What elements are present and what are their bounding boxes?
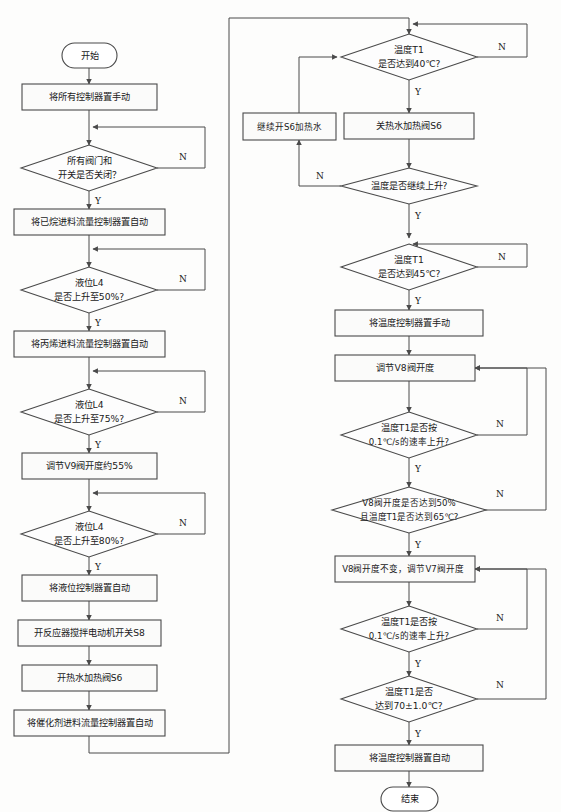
keep-v8-adjust-v7-valve-opening[interactable]: V8阀开度不变，调节V7阀开度	[335, 556, 475, 582]
node-p3-label: 将丙烯进料流量控制器置自动	[31, 338, 148, 349]
branch-label-d2-no: N	[179, 274, 187, 284]
decision-temp-rate-01-v8[interactable]: 温度T1是否按 0.1℃/s的速率上升?	[341, 412, 477, 458]
node-d3-label-line2: 是否上升至75%?	[54, 413, 124, 424]
branch-label-d10-no: N	[496, 613, 504, 623]
node-p11-label: 将温度控制器置手动	[369, 317, 450, 328]
branch-label-d4-no: N	[179, 518, 187, 528]
node-d7-label-line2: 是否达到45℃?	[378, 268, 441, 279]
decision-shape-d9[interactable]	[332, 487, 486, 533]
decision-level-l4-75[interactable]: 液位L4 是否上升至75%?	[21, 389, 157, 435]
close-hot-water-heating-valve-s6[interactable]: 关热水加热阀S6	[344, 113, 474, 139]
decision-temp-keeps-rising[interactable]: 温度是否继续上升?	[341, 168, 477, 204]
node-d5-label-line1: 温度T1	[394, 44, 423, 55]
node-start[interactable]: 开始	[62, 43, 117, 68]
open-hot-water-heating-valve-s6[interactable]: 开热水加热阀S6	[22, 665, 157, 691]
decision-temp-t1-45c[interactable]: 温度T1 是否达到45℃?	[341, 244, 477, 290]
node-d11-label-line1: 温度T1是否	[385, 686, 432, 697]
node-p10-label: 继续开S6加热水	[257, 121, 322, 132]
node-d4-label-line2: 是否上升至80%?	[54, 535, 124, 546]
node-d9-label-line1: V8阀开度是否达到50%	[362, 497, 455, 508]
node-p4-label: 调节V9阀开度约55%	[46, 460, 133, 471]
flowchart-diagram: Y N Y N Y N Y N Y N Y N Y N Y N Y N Y N …	[0, 0, 561, 812]
branch-label-d11-yes: Y	[414, 729, 422, 739]
node-p13-label: V8阀开度不变，调节V7阀开度	[342, 563, 464, 574]
decision-level-l4-50[interactable]: 液位L4 是否上升至50%?	[21, 267, 157, 313]
node-d9-label-line2: 且温度T1是否达到65℃?	[360, 511, 459, 522]
branch-label-d4-yes: Y	[94, 562, 102, 572]
branch-label-d10-yes: Y	[414, 659, 422, 669]
node-p1-label: 将所有控制器置手动	[49, 91, 130, 102]
node-start-label: 开始	[81, 50, 99, 61]
node-end[interactable]: 结束	[381, 787, 438, 811]
branch-label-d8-no: N	[496, 419, 504, 429]
edge-d9-no-loop	[475, 368, 546, 510]
node-d2-label-line2: 是否上升至50%?	[54, 291, 124, 302]
adjust-v8-valve-opening[interactable]: 调节V8阀开度	[335, 355, 475, 381]
decision-shape-d8[interactable]	[341, 412, 477, 458]
node-d1-label-line1: 所有阀门和	[67, 155, 112, 166]
branch-label-d9-yes: Y	[414, 540, 422, 550]
decision-temp-t1-70c[interactable]: 温度T1是否 达到70±1.0℃?	[341, 676, 477, 722]
node-d6-label-line1: 温度是否继续上升?	[371, 180, 448, 191]
decision-temp-t1-40c[interactable]: 温度T1 是否达到40℃?	[341, 34, 477, 80]
node-p2-label: 将已烷进料流量控制器置自动	[31, 216, 148, 227]
branch-label-d5-yes: Y	[414, 87, 422, 97]
node-p7-label: 开热水加热阀S6	[57, 672, 123, 683]
branch-label-d1-no: N	[179, 152, 187, 162]
decision-all-valves-closed[interactable]: 所有阀门和 开关是否关闭？	[21, 145, 157, 191]
node-d3-label-line1: 液位L4	[75, 399, 104, 410]
flowchart-canvas: Y N Y N Y N Y N Y N Y N Y N Y N Y N Y N …	[0, 0, 561, 812]
node-p12-label: 调节V8阀开度	[376, 362, 433, 373]
node-p5-label: 将液位控制器置自动	[49, 582, 130, 593]
node-d8-label-line1: 温度T1是否按	[381, 422, 437, 433]
set-propylene-feed-flow-controller-auto[interactable]: 将丙烯进料流量控制器置自动	[14, 331, 165, 357]
edge-p10-to-d5	[299, 57, 337, 113]
set-temperature-controller-auto[interactable]: 将温度控制器置自动	[335, 745, 483, 771]
set-level-controller-auto[interactable]: 将液位控制器置自动	[22, 575, 157, 601]
node-p14-label: 将温度控制器置自动	[369, 752, 450, 763]
decision-v8-50-and-temp-65c[interactable]: V8阀开度是否达到50% 且温度T1是否达到65℃?	[332, 487, 486, 533]
branch-label-d3-no: N	[179, 396, 187, 406]
node-p9-label: 关热水加热阀S6	[376, 120, 442, 131]
node-d10-label-line2: 0.1℃/s的速率上升?	[369, 630, 449, 641]
branch-label-d8-yes: Y	[414, 464, 422, 474]
node-d11-label-line2: 达到70±1.0℃?	[375, 700, 442, 711]
node-d10-label-line1: 温度T1是否按	[381, 616, 437, 627]
edge-d11-no-loop	[475, 569, 546, 699]
branch-label-d1-yes: Y	[94, 196, 102, 206]
node-d8-label-line2: 0.1℃/s的速率上升?	[369, 436, 449, 447]
branch-label-d7-no: N	[498, 252, 506, 262]
decision-level-l4-80[interactable]: 液位L4 是否上升至80%?	[21, 511, 157, 557]
branch-label-d9-no: N	[496, 489, 504, 499]
branch-label-d6-no: N	[316, 171, 324, 181]
decision-shape-d10[interactable]	[341, 606, 477, 652]
branch-label-d2-yes: Y	[94, 318, 102, 328]
node-d5-label-line2: 是否达到40℃?	[378, 58, 441, 69]
node-p6-label: 开反应器搅拌电动机开关S8	[34, 627, 145, 638]
adjust-v9-valve-opening[interactable]: 调节V9阀开度约55%	[22, 453, 157, 479]
set-catalyst-feed-flow-controller-auto[interactable]: 将催化剂进料流量控制器置自动	[14, 710, 165, 736]
node-set-all-controllers-manual[interactable]: 将所有控制器置手动	[22, 84, 157, 110]
branch-label-d11-no: N	[496, 680, 504, 690]
branch-label-d7-yes: Y	[414, 296, 422, 306]
branch-label-d5-no: N	[498, 42, 506, 52]
branch-label-d3-yes: Y	[94, 440, 102, 450]
decision-temp-rate-01-v7[interactable]: 温度T1是否按 0.1℃/s的速率上升?	[341, 606, 477, 652]
open-reactor-agitator-motor-switch-s8[interactable]: 开反应器搅拌电动机开关S8	[18, 620, 161, 646]
set-temperature-controller-manual[interactable]: 将温度控制器置手动	[335, 310, 483, 336]
node-d7-label-line1: 温度T1	[394, 254, 423, 265]
node-d4-label-line1: 液位L4	[75, 521, 104, 532]
node-end-label: 结束	[401, 793, 419, 804]
branch-label-d6-yes: Y	[414, 211, 422, 221]
node-d1-label-line2: 开关是否关闭？	[58, 169, 121, 180]
set-hexane-feed-flow-controller-auto[interactable]: 将已烷进料流量控制器置自动	[14, 209, 165, 235]
node-d2-label-line1: 液位L4	[75, 277, 104, 288]
continue-opening-s6-heating-water[interactable]: 继续开S6加热水	[243, 113, 336, 140]
node-p8-label: 将催化剂进料流量控制器置自动	[27, 717, 153, 728]
